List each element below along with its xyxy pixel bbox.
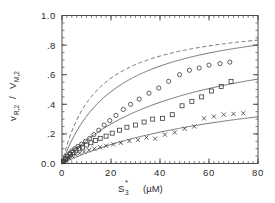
marker-cross bbox=[173, 130, 177, 134]
marker-square bbox=[134, 123, 138, 127]
marker-square bbox=[89, 141, 93, 145]
marker-circle bbox=[197, 66, 201, 70]
marker-square bbox=[229, 79, 233, 83]
x-tick-label: 0 bbox=[59, 167, 65, 178]
marker-cross bbox=[144, 136, 148, 140]
marker-circle bbox=[166, 79, 170, 83]
y-axis-label: v R,2 / V M,2 bbox=[7, 71, 20, 121]
marker-square bbox=[151, 117, 155, 121]
marker-cross bbox=[136, 138, 140, 142]
x-axis-label-subscript: 3 bbox=[125, 189, 129, 196]
marker-circle bbox=[121, 107, 125, 111]
marker-circle bbox=[218, 62, 222, 66]
y-tick-label: 1.0 bbox=[41, 10, 56, 21]
data-points bbox=[61, 60, 245, 164]
series-circles bbox=[61, 60, 232, 163]
x-tick-label: 80 bbox=[252, 167, 264, 178]
marker-cross bbox=[192, 124, 196, 128]
y-tick-label: .6 bbox=[47, 69, 56, 80]
marker-cross bbox=[82, 150, 86, 154]
marker-circle bbox=[228, 60, 232, 64]
y-tick-label: .2 bbox=[47, 128, 56, 139]
y-axis-label-den-base: V bbox=[7, 82, 18, 89]
x-tick-label: 60 bbox=[203, 167, 215, 178]
x-tick-label: 40 bbox=[154, 167, 166, 178]
marker-cross bbox=[241, 111, 245, 115]
marker-square bbox=[200, 95, 204, 99]
marker-square bbox=[190, 99, 194, 103]
marker-square bbox=[160, 116, 164, 120]
y-tick-label: .4 bbox=[47, 99, 56, 110]
marker-cross bbox=[202, 116, 206, 120]
marker-cross bbox=[212, 114, 216, 118]
curve-solid-upper bbox=[62, 45, 258, 163]
y-axis-label-den-subscript: M,2 bbox=[13, 71, 20, 82]
marker-cross bbox=[153, 137, 157, 141]
marker-square bbox=[93, 139, 97, 143]
y-tick-label: 0.0 bbox=[41, 158, 56, 169]
y-axis-label-slash: / bbox=[7, 96, 18, 99]
marker-square bbox=[180, 104, 184, 108]
marker-circle bbox=[102, 123, 106, 127]
marker-circle bbox=[114, 113, 118, 117]
marker-circle bbox=[137, 97, 141, 101]
scatter-plot: 020406080 0.0.2.4.6.81.0 S 3 * (µM) v R,… bbox=[0, 0, 275, 203]
marker-cross bbox=[231, 112, 235, 116]
marker-circle bbox=[207, 63, 211, 67]
marker-circle bbox=[157, 86, 161, 90]
marker-circle bbox=[108, 118, 112, 122]
x-axis-label: S 3 * (µM) bbox=[118, 178, 163, 196]
x-tick-labels: 020406080 bbox=[59, 167, 264, 178]
x-tick-label: 20 bbox=[105, 167, 117, 178]
marker-square bbox=[104, 134, 108, 138]
x-axis-label-superscript: * bbox=[125, 178, 128, 187]
x-axis-label-base: S bbox=[118, 183, 124, 194]
marker-square bbox=[209, 89, 213, 93]
marker-cross bbox=[163, 133, 167, 137]
figure-container: 020406080 0.0.2.4.6.81.0 S 3 * (µM) v R,… bbox=[0, 0, 275, 203]
marker-circle bbox=[187, 68, 191, 72]
marker-cross bbox=[78, 151, 82, 155]
marker-circle bbox=[178, 73, 182, 77]
y-tick-labels: 0.0.2.4.6.81.0 bbox=[41, 10, 56, 169]
y-axis-label-num-base: v bbox=[7, 116, 18, 121]
marker-circle bbox=[129, 102, 133, 106]
marker-square bbox=[110, 131, 114, 135]
series-crosses bbox=[62, 111, 246, 164]
marker-square bbox=[118, 128, 122, 132]
marker-square bbox=[125, 125, 129, 129]
marker-circle bbox=[147, 91, 151, 95]
y-tick-label: .8 bbox=[47, 40, 56, 51]
y-axis-label-num-subscript: R,2 bbox=[13, 105, 20, 116]
marker-cross bbox=[222, 113, 226, 117]
marker-square bbox=[170, 113, 174, 117]
marker-square bbox=[98, 136, 102, 140]
marker-square bbox=[142, 120, 146, 124]
x-axis-units: (µM) bbox=[143, 183, 163, 194]
